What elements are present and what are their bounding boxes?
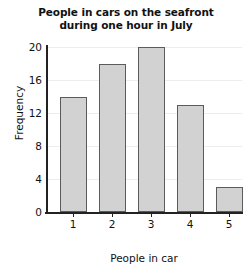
x-tick-label-1: 1 xyxy=(58,218,88,230)
x-tick-mark-3 xyxy=(151,213,152,217)
x-axis-line xyxy=(45,212,243,214)
y-tick-label-16: 16 xyxy=(20,75,42,85)
x-axis-label: People in car xyxy=(46,252,242,264)
x-tick-label-3: 3 xyxy=(136,218,166,230)
bar-category-3 xyxy=(138,47,165,212)
x-tick-mark-4 xyxy=(190,213,191,217)
plot-area xyxy=(46,47,242,212)
chart-title-line2: during one hour in July xyxy=(26,19,226,32)
x-tick-label-5: 5 xyxy=(214,218,244,230)
x-tick-label-4: 4 xyxy=(175,218,205,230)
chart-title: People in cars on the seafront during on… xyxy=(26,6,226,32)
bar-category-4 xyxy=(177,105,204,212)
x-tick-label-2: 2 xyxy=(97,218,127,230)
y-tick-label-0: 0 xyxy=(20,207,42,217)
x-tick-mark-2 xyxy=(112,213,113,217)
x-tick-mark-5 xyxy=(229,213,230,217)
x-tick-mark-1 xyxy=(73,213,74,217)
bar-category-1 xyxy=(60,97,87,213)
bar-category-2 xyxy=(99,64,126,213)
chart-title-line1: People in cars on the seafront xyxy=(38,6,214,18)
y-tick-label-20: 20 xyxy=(20,42,42,52)
bar-chart: People in cars on the seafront during on… xyxy=(0,0,248,279)
y-tick-label-4: 4 xyxy=(20,174,42,184)
y-axis-line xyxy=(46,45,48,214)
bar-category-5 xyxy=(216,187,243,212)
y-tick-label-12: 12 xyxy=(20,108,42,118)
y-tick-label-8: 8 xyxy=(20,141,42,151)
